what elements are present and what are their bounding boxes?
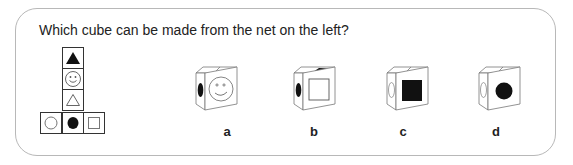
option-label-a[interactable]: a [217,124,237,139]
option-label-b[interactable]: b [304,124,324,139]
outline-square-icon [86,115,102,131]
net-cell-outline-triangle [62,89,84,111]
option-cube-b[interactable] [292,66,338,116]
net-cell-black-triangle [62,47,84,69]
smiley-face-icon [64,70,82,88]
option-cube-c[interactable] [385,66,431,116]
option-label-d[interactable]: d [486,124,506,139]
outline-triangle-icon [65,93,81,107]
outline-circle-icon [43,115,59,131]
option-cube-a[interactable] [194,66,240,116]
black-triangle-icon [65,51,81,65]
option-label-c[interactable]: c [393,124,413,139]
black-circle-icon [65,115,81,131]
cube-b-drawing [292,66,338,112]
net-cell-smiley [62,68,84,90]
question-text: Which cube can be made from the net on t… [39,22,349,38]
cube-c-drawing [385,66,431,112]
cube-d-drawing [477,66,523,112]
net-cell-outline-circle [40,112,62,134]
net-cell-outline-square [83,112,105,134]
net-cell-black-circle [62,112,84,134]
option-cube-d[interactable] [477,66,523,116]
cube-a-drawing [194,66,240,112]
